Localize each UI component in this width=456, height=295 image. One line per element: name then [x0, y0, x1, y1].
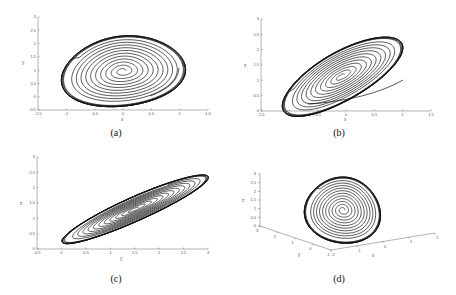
xlabel-a: x [121, 117, 124, 122]
y-tick-label: 1.5 [30, 54, 36, 59]
x-tick-label: 0 [122, 111, 125, 116]
chart-panel-b: -1.5-1-0.500.511.500.511.522.53 z x (b) [228, 0, 456, 148]
y-tick-label: 2.5 [253, 32, 259, 37]
x-tick-label: 1 [410, 239, 413, 244]
caption-d: (d) [324, 273, 354, 284]
ylabel-a: y [22, 60, 25, 65]
xlabel-d: x [372, 253, 375, 258]
x-tick-label: 1.5 [205, 111, 211, 116]
x-tick-label: 1 [109, 250, 112, 255]
x-tick-label: 2 [158, 250, 161, 255]
y-tick-label: 0.5 [30, 81, 36, 86]
zlabel-d: z [242, 198, 245, 203]
z-tick-label: 2.5 [250, 180, 256, 185]
x-tick-label: 0 [384, 244, 387, 249]
trajectory-b [282, 37, 403, 116]
chart-b-svg: -1.5-1-0.500.511.500.511.522.53 z x [228, 0, 456, 148]
x-tick-label: 0.5 [372, 112, 378, 117]
xlabel-c: y [120, 256, 123, 261]
z-tick-label: 1.5 [250, 197, 256, 202]
y-tick-label: 2 [257, 47, 260, 52]
ylabel-d: y [298, 252, 301, 257]
caption-c: (c) [101, 273, 131, 284]
x-tick-label: -1 [65, 111, 69, 116]
x-tick-label: -0.5 [91, 111, 99, 116]
y-tick-label: 3 [257, 16, 260, 21]
y-tick-label: 1 [291, 240, 294, 245]
ylabel-c: z [20, 201, 23, 206]
x-tick-label: 0.5 [83, 250, 89, 255]
y-tick-label: 1.5 [253, 62, 259, 67]
caption-a: (a) [101, 127, 131, 138]
x-tick-label: 3 [207, 250, 210, 255]
z-tick-label: 1 [254, 206, 257, 211]
y-tick-label: 1.5 [29, 200, 35, 205]
y-tick-label: 1 [257, 78, 260, 83]
y-tick-label: 2.5 [30, 28, 36, 33]
y-tick-label: 2.5 [29, 170, 35, 175]
x-tick-label: 1.5 [132, 250, 138, 255]
y-tick-label: 0 [309, 246, 312, 251]
y-tick-label: 3 [34, 14, 37, 19]
y-tick-label: 3 [33, 154, 36, 159]
y-tick-label: 0 [34, 94, 37, 99]
x-tick-label: -1 [357, 248, 361, 253]
y-tick-label: -0.5 [29, 107, 37, 112]
x-tick-label: 1 [402, 112, 405, 117]
z-tick-label: 3 [254, 171, 257, 176]
chart-panel-c: -0.500.511.522.5300.511.522.53 z y (c) [0, 148, 228, 295]
trajectory-c [62, 175, 208, 244]
y-tick-label: 2 [34, 41, 37, 46]
x-tick-label: 2.5 [181, 250, 187, 255]
z-tick-label: 2 [254, 189, 257, 194]
y-tick-label: 2 [33, 185, 36, 190]
chart-panel-d: 00.511.522.533210-1-2-1012 z y x (d) [228, 148, 456, 295]
caption-b: (b) [324, 127, 354, 138]
y-tick-label: -1 [326, 252, 330, 257]
chart-panel-a: -1.5-1-0.500.511.5-0.500.511.522.53 y x … [0, 0, 228, 148]
y-tick-label: 0.5 [253, 93, 259, 98]
x-tick-label: 1.5 [428, 112, 434, 117]
x-tick-label: 0.5 [149, 111, 155, 116]
y-tick-label: 3 [256, 228, 259, 233]
xlabel-b: x [344, 117, 347, 122]
y-tick-label: 1 [33, 216, 36, 221]
x-tick-label: 2 [436, 235, 439, 240]
x-tick-label: -2 [331, 252, 335, 257]
y-tick-label: 0.5 [29, 231, 35, 236]
chart-a-svg: -1.5-1-0.500.511.5-0.500.511.522.53 y x [0, 0, 228, 148]
z-tick-label: 0.5 [250, 215, 256, 220]
x-tick-label: 0 [60, 250, 63, 255]
ylabel-b: z [244, 63, 247, 68]
y-tick-label: 2 [274, 234, 277, 239]
axes-c [37, 157, 208, 249]
trajectory-a [61, 36, 185, 107]
x-tick-label: 1 [179, 111, 182, 116]
y-tick-label: 1 [34, 68, 37, 73]
trajectory-d [304, 177, 380, 243]
